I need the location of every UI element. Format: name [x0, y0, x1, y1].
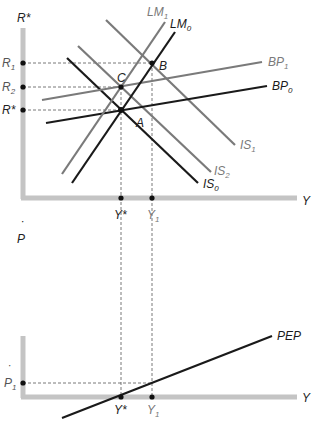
tick-rstar: R* — [2, 103, 16, 117]
is0-label: IS0 — [203, 177, 219, 193]
tick-r2: R2 — [2, 80, 16, 96]
bp1-label: BP1 — [268, 55, 288, 71]
is1-label: IS1 — [240, 138, 256, 154]
is-lm-bp-diagram: R* Y R1 R2 R* Y* Y1 C A B LM1 LM0 BP1 BP… — [0, 0, 317, 422]
tick-r1: R1 — [2, 56, 15, 72]
tick-ystar-bottom: Y* — [114, 403, 127, 417]
p-dot-mark: ˙ — [20, 219, 24, 233]
pep-label: PEP — [277, 329, 301, 343]
dot-r2 — [20, 84, 25, 89]
tick-p1: P1 — [4, 376, 16, 392]
dot-y1-bottom — [149, 394, 154, 399]
dot-ystar — [118, 195, 123, 200]
bottom-x-axis-label: Y — [302, 391, 311, 405]
dot-ystar-bottom — [118, 394, 123, 399]
top-guides — [23, 63, 152, 397]
is2-label: IS2 — [214, 164, 230, 180]
point-c-label: C — [117, 71, 126, 85]
point-a — [118, 107, 124, 113]
dot-rstar — [20, 107, 25, 112]
top-y-axis-label: R* — [17, 11, 31, 25]
dot-r1 — [20, 60, 25, 65]
tick-y1: Y1 — [147, 208, 159, 224]
is2-curve — [78, 46, 211, 172]
point-c — [118, 84, 123, 89]
lm0-label: LM0 — [170, 17, 192, 33]
tick-y1-bottom: Y1 — [147, 403, 159, 419]
bottom-y-axis-label: P — [17, 232, 25, 246]
p1-dot-mark: ˙ — [7, 363, 11, 377]
bp0-label: BP0 — [272, 79, 293, 95]
pep-curve — [62, 336, 272, 418]
dot-p1 — [20, 380, 25, 385]
top-points — [20, 60, 154, 200]
lm1-label: LM1 — [147, 5, 168, 21]
point-a-label: A — [135, 116, 144, 130]
dot-y1 — [149, 195, 154, 200]
tick-ystar: Y* — [114, 208, 127, 222]
bp0-curve — [46, 86, 267, 123]
lm1-curve — [62, 22, 165, 174]
top-x-axis-label: Y — [302, 194, 311, 208]
point-b — [149, 60, 154, 65]
point-b-label: B — [159, 59, 167, 73]
